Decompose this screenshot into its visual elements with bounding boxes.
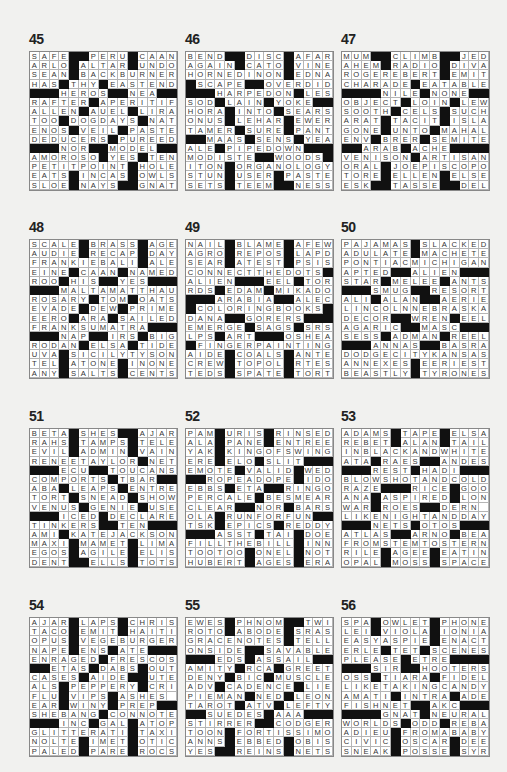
letter-cell: E xyxy=(206,457,216,466)
letter-cell: A xyxy=(411,530,421,539)
letter-cell: E xyxy=(108,636,118,645)
letter-cell: A xyxy=(391,457,401,466)
black-square xyxy=(352,710,362,719)
black-square xyxy=(381,126,391,135)
letter-cell: N xyxy=(215,268,225,277)
letter-cell: E xyxy=(401,646,411,655)
black-square xyxy=(99,144,109,153)
black-square xyxy=(196,295,206,304)
letter-cell: O xyxy=(391,503,401,512)
letter-cell: A xyxy=(30,530,40,539)
letter-cell: P xyxy=(245,369,255,378)
letter-cell: T xyxy=(313,350,323,359)
letter-cell: O xyxy=(469,484,479,493)
letter-cell: R xyxy=(50,701,60,710)
letter-cell: S xyxy=(460,747,470,756)
letter-cell: H xyxy=(430,144,440,153)
black-square xyxy=(469,655,479,664)
letter-cell: I xyxy=(255,747,265,756)
letter-cell: E xyxy=(469,314,479,323)
letter-cell: L xyxy=(59,240,69,249)
letter-cell: T xyxy=(59,728,69,737)
letter-cell: E xyxy=(206,359,216,368)
black-square xyxy=(411,153,421,162)
letter-cell: O xyxy=(342,98,352,107)
black-square xyxy=(284,359,294,368)
letter-cell: E xyxy=(225,636,235,645)
letter-cell: A xyxy=(79,548,89,557)
letter-cell: H xyxy=(138,692,148,701)
letter-cell: E xyxy=(411,162,421,171)
letter-cell: A xyxy=(206,61,216,70)
black-square xyxy=(225,673,235,682)
letter-cell: A xyxy=(371,240,381,249)
letter-cell: P xyxy=(99,682,109,691)
black-square xyxy=(215,747,225,756)
black-square xyxy=(99,655,109,664)
letter-cell: N xyxy=(50,457,60,466)
letter-cell: F xyxy=(108,655,118,664)
letter-cell: N xyxy=(411,692,421,701)
letter-cell: B xyxy=(118,636,128,645)
letter-cell: R xyxy=(30,457,40,466)
letter-cell: B xyxy=(30,429,40,438)
letter-cell: M xyxy=(148,268,158,277)
letter-cell: O xyxy=(148,664,158,673)
letter-cell: T xyxy=(391,98,401,107)
black-square xyxy=(128,162,138,171)
letter-cell: F xyxy=(304,701,314,710)
letter-cell: M xyxy=(371,539,381,548)
letter-cell: N xyxy=(284,89,294,98)
letter-cell: R xyxy=(138,636,148,645)
letter-cell: A xyxy=(69,332,79,341)
letter-cell: C xyxy=(371,304,381,313)
black-square xyxy=(157,646,167,655)
letter-cell: D xyxy=(196,286,206,295)
letter-cell: N xyxy=(89,493,99,502)
black-square xyxy=(304,710,314,719)
black-square xyxy=(294,618,304,627)
letter-cell: A xyxy=(148,466,158,475)
letter-cell: L xyxy=(362,530,372,539)
letter-cell: A xyxy=(391,548,401,557)
letter-cell: C xyxy=(323,295,333,304)
letter-cell: I xyxy=(59,539,69,548)
letter-cell: O xyxy=(138,171,148,180)
letter-cell: W xyxy=(215,359,225,368)
black-square xyxy=(440,277,450,286)
letter-cell: I xyxy=(148,341,158,350)
letter-cell: E xyxy=(215,655,225,664)
letter-cell: L xyxy=(108,126,118,135)
black-square xyxy=(411,369,421,378)
letter-cell: E xyxy=(294,107,304,116)
letter-cell: E xyxy=(304,98,314,107)
letter-cell: F xyxy=(30,258,40,267)
letter-cell: N xyxy=(235,692,245,701)
letter-cell: N xyxy=(450,268,460,277)
letter-cell: I xyxy=(245,70,255,79)
letter-cell: S xyxy=(411,737,421,746)
letter-cell: J xyxy=(40,618,50,627)
letter-cell: C xyxy=(40,240,50,249)
letter-cell: E xyxy=(313,240,323,249)
puzzle-number: 48 xyxy=(29,219,44,235)
letter-cell: T xyxy=(59,664,69,673)
letter-cell: L xyxy=(460,493,470,502)
letter-cell: R xyxy=(128,457,138,466)
black-square xyxy=(460,144,470,153)
letter-cell: U xyxy=(225,429,235,438)
black-square xyxy=(40,719,50,728)
letter-cell: S xyxy=(274,655,284,664)
letter-cell: A xyxy=(420,475,430,484)
letter-cell: S xyxy=(313,181,323,190)
letter-cell: L xyxy=(362,548,372,557)
letter-cell: I xyxy=(391,673,401,682)
letter-cell: O xyxy=(196,153,206,162)
letter-cell: G xyxy=(342,126,352,135)
black-square xyxy=(313,457,323,466)
letter-cell: E xyxy=(69,89,79,98)
letter-cell: T xyxy=(215,548,225,557)
letter-cell: I xyxy=(255,295,265,304)
letter-cell: E xyxy=(235,323,245,332)
black-square xyxy=(440,719,450,728)
